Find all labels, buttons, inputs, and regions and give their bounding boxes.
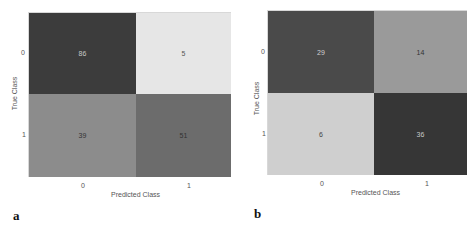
cell-0-1: 5: [136, 13, 231, 94]
matrix-plot-area: 29 14 6 36: [267, 10, 467, 175]
y-tick-0: 0: [261, 48, 265, 55]
cell-value: 5: [182, 50, 186, 57]
x-tick-1: 1: [425, 180, 429, 187]
cell-value: 6: [319, 131, 323, 138]
x-axis-label: Predicted Class: [351, 189, 400, 196]
matrix-plot-area: 86 5 39 51: [28, 12, 231, 177]
cell-0-1: 14: [374, 11, 467, 93]
x-tick-0: 0: [320, 180, 324, 187]
cell-1-1: 51: [136, 94, 231, 177]
cell-value: 36: [417, 131, 425, 138]
panel-letter: b: [254, 206, 261, 222]
panel-letter: a: [13, 208, 20, 224]
y-tick-0: 0: [21, 49, 25, 56]
cell-0-0: 86: [29, 13, 136, 94]
y-tick-1: 1: [22, 131, 26, 138]
cell-1-0: 39: [29, 94, 136, 177]
cell-0-0: 29: [268, 11, 374, 93]
cell-value: 29: [317, 49, 325, 56]
y-axis-label: True Class: [11, 72, 18, 116]
cell-1-0: 6: [268, 93, 374, 175]
cell-1-1: 36: [374, 93, 467, 175]
cell-value: 51: [180, 132, 188, 139]
cell-value: 14: [417, 49, 425, 56]
x-axis-label: Predicted Class: [111, 191, 160, 198]
y-axis-label: True Class: [253, 77, 260, 121]
cell-value: 39: [79, 132, 87, 139]
confusion-matrix-a: 86 5 39 51 0 1 True Class 0 1 Predicted …: [0, 0, 237, 230]
x-tick-1: 1: [187, 182, 191, 189]
confusion-matrix-b: 29 14 6 36 0 1 True Class 0 1 Predicted …: [237, 0, 475, 230]
y-tick-1: 1: [262, 130, 266, 137]
cell-value: 86: [79, 50, 87, 57]
x-tick-0: 0: [81, 182, 85, 189]
